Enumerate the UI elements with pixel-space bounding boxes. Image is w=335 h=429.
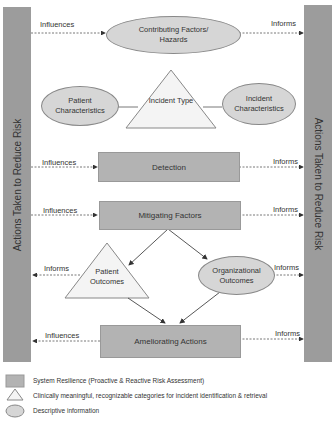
incident-characteristics-label: Incident Characteristics: [229, 94, 289, 114]
legend-ellipse-swatch: [6, 405, 24, 417]
edge-label-mitigating-informs: Informs: [273, 205, 298, 214]
edge-label-org-outcomes-informs: Informs: [274, 263, 299, 272]
ameliorating-actions-label: Ameliorating Actions: [134, 337, 206, 346]
edge-label-contrib-informs: Informs: [271, 19, 296, 28]
incident-type-label: Incident Type: [141, 96, 201, 106]
mitigating-factors-label: Mitigating Factors: [138, 211, 201, 220]
incident-characteristics-node: Incident Characteristics: [222, 83, 296, 125]
patient-characteristics-node: Patient Characteristics: [41, 86, 119, 126]
edge-label-ameliorating-influences: Influences: [45, 331, 79, 340]
legend-ellipse-text: Descriptive information: [33, 407, 99, 414]
detection-node: Detection: [98, 152, 240, 182]
right-bar-label: Actions Taken to Reduce Risk: [313, 117, 324, 250]
edge-label-ameliorating-informs: Informs: [275, 329, 300, 338]
contributing-factors-node: Contributing Factors/ Hazards: [106, 16, 241, 54]
patient-outcomes-label: Patient Outcomes: [82, 267, 132, 287]
legend-triangle-text: Clinically meaningful, recognizable cate…: [33, 392, 267, 399]
left-actions-bar: Actions Taken to Reduce Risk: [3, 7, 31, 362]
mitigating-factors-node: Mitigating Factors: [99, 201, 241, 230]
edge-label-contrib-influences: Influences: [40, 20, 74, 29]
edge-label-detection-informs: Informs: [273, 157, 298, 166]
legend-rect-swatch: [6, 375, 24, 387]
ameliorating-actions-node: Ameliorating Actions: [100, 325, 241, 358]
contributing-factors-label: Contributing Factors/ Hazards: [134, 25, 214, 45]
patient-characteristics-label: Patient Characteristics: [50, 96, 110, 116]
organizational-outcomes-label: Organizational Outcomes: [207, 266, 267, 286]
edge-label-detection-influences: Influences: [42, 158, 76, 167]
legend-item-ellipse: Descriptive information: [33, 407, 99, 414]
legend-rect-text: System Resilience (Proactive & Reactive …: [33, 377, 204, 384]
right-actions-bar: Actions Taken to Reduce Risk: [304, 5, 332, 362]
edge-label-patient-outcomes-informs: Informs: [44, 264, 69, 273]
legend-item-rectangle: System Resilience (Proactive & Reactive …: [33, 377, 204, 384]
detection-label: Detection: [152, 163, 186, 172]
left-bar-label: Actions Taken to Reduce Risk: [12, 118, 23, 251]
legend-item-triangle: Clinically meaningful, recognizable cate…: [33, 392, 267, 399]
legend-triangle-swatch: [7, 389, 23, 400]
organizational-outcomes-node: Organizational Outcomes: [198, 256, 275, 295]
edge-label-mitigating-influences: Influences: [43, 206, 77, 215]
